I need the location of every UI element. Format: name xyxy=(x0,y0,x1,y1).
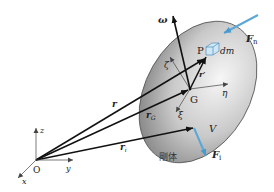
label-r-prime: r′ xyxy=(199,69,206,79)
label-z: z xyxy=(39,126,45,135)
center-of-mass-point xyxy=(189,88,192,91)
inertial-axes xyxy=(18,128,73,178)
label-eta: η xyxy=(222,88,228,98)
label-r: r xyxy=(112,99,118,109)
label-x: x xyxy=(22,177,27,186)
label-fi: Fi xyxy=(211,149,222,162)
label-omega: ω xyxy=(158,14,168,25)
rigid-body-diagram: Fn Fi η ξ ζ ω r′ P dm G r rG ri V 剛体 xyxy=(0,0,274,192)
label-dm: dm xyxy=(220,46,234,56)
label-origin: O xyxy=(33,165,40,175)
label-body-caption: 剛体 xyxy=(159,151,177,162)
label-r-i: ri xyxy=(120,142,127,153)
rigid-body xyxy=(115,0,274,184)
label-y: y xyxy=(65,164,71,173)
label-g: G xyxy=(190,94,198,105)
label-p: P xyxy=(197,45,204,56)
